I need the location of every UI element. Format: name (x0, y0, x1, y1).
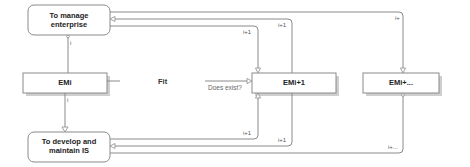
label-line: To develop and (28, 137, 110, 146)
arrow-left-icon (110, 144, 115, 149)
arrow-down-icon (401, 68, 406, 73)
node-emi-label: EMi (23, 78, 107, 87)
edge-manage-outer (115, 19, 292, 73)
label-line: To manage (28, 11, 110, 20)
edge-label-develop-inner: i+1 (243, 130, 251, 136)
circle-end-icon (67, 35, 70, 38)
edge-label-develop-far: i+... (388, 144, 398, 150)
edge-label-manage-far: i+ (395, 15, 400, 21)
edge-develop-far (110, 96, 403, 153)
arrow-left-icon (110, 17, 115, 22)
edge-manage-inner (110, 26, 258, 69)
arrow-down-icon (62, 127, 68, 132)
edge-develop-inner (110, 97, 258, 139)
edge-manage-far (110, 12, 403, 69)
edge-label-manage-outer: i+1 (278, 22, 286, 28)
circle-end-icon (402, 94, 405, 97)
edge-label-manage-inner: i+1 (243, 29, 251, 35)
edge-label-manage-emi: i (70, 40, 71, 46)
fit-label: Fit (158, 77, 167, 86)
edge-label-develop-outer: i+1 (278, 137, 286, 143)
node-develop-is-label: To develop and maintain IS (28, 137, 110, 155)
node-manage-enterprise-label: To manage enterprise (28, 11, 110, 29)
label-line: maintain IS (28, 146, 110, 155)
does-exist-label: Does exist? (208, 84, 242, 91)
arrow-down-icon (256, 68, 261, 73)
label-line: enterprise (28, 20, 110, 29)
edge-label-emi-develop: i (67, 97, 68, 103)
node-emi-next-label: EMi+1 (252, 78, 336, 87)
node-emi-more-label: EMi+... (363, 78, 439, 87)
edge-develop-outer (115, 93, 292, 146)
